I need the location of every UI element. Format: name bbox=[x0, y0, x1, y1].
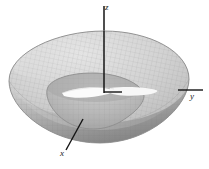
torus-surface-plot bbox=[0, 0, 209, 169]
torus-figure: z y x bbox=[0, 0, 209, 169]
x-axis-label: x bbox=[60, 149, 64, 158]
z-axis-label: z bbox=[105, 3, 109, 12]
y-axis-label: y bbox=[190, 92, 194, 101]
